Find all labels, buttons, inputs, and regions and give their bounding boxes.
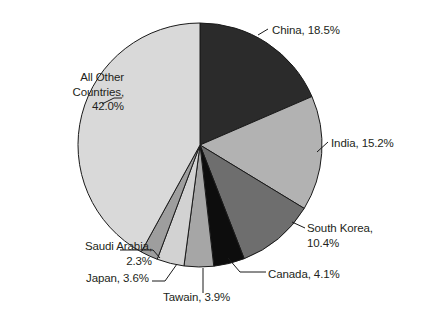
slice-label-japan: Japan, 3.6% [86, 271, 149, 286]
pie-chart-graphic [0, 0, 422, 328]
pie-slices-group [78, 23, 322, 267]
slice-label-all-other: All Other Countries, 42.0% [16, 70, 124, 114]
slice-label-canada: Canada, 4.1% [268, 267, 340, 282]
slice-label-saudi-arabia: Saudi Arabia, 2.3% [40, 239, 152, 268]
pie-chart-figure: China, 18.5% India, 15.2% South Korea, 1… [0, 0, 422, 328]
leader-line-china [258, 29, 268, 35]
leader-line-south-korea [292, 222, 305, 228]
slice-label-taiwan: Tawain, 3.9% [163, 290, 230, 305]
slice-label-south-korea: South Korea, 10.4% [307, 221, 373, 250]
slice-label-china: China, 18.5% [272, 23, 340, 38]
slice-label-india: India, 15.2% [331, 136, 394, 151]
leader-line-japan [152, 264, 177, 281]
